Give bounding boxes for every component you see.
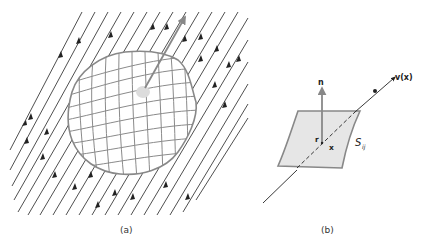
label-n: n — [318, 78, 324, 87]
velocity-line-upper — [355, 78, 394, 112]
velocity-line-lower — [263, 170, 297, 203]
figure: (a) n v(x) r x S ij (b) — [0, 0, 422, 241]
surface-patch — [136, 86, 150, 98]
point-marker — [373, 89, 377, 93]
label-s-subscript: ij — [362, 143, 366, 151]
label-s: S — [355, 137, 362, 148]
closed-surface — [66, 51, 200, 180]
caption-b: (b) — [321, 225, 334, 235]
point-x-marker — [321, 142, 323, 144]
surface-element — [278, 111, 360, 168]
caption-a: (a) — [120, 225, 133, 235]
panel-b: n v(x) r x S ij — [263, 73, 413, 203]
label-x: x — [329, 143, 334, 152]
label-r: r — [315, 135, 319, 144]
label-vx: v(x) — [395, 73, 413, 82]
